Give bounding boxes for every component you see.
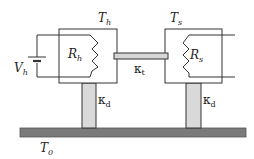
base-plate	[20, 128, 246, 137]
voltage-source-label: Vh	[14, 61, 28, 77]
right-support-conductance-label: κd	[203, 93, 216, 109]
thermal-link-bar	[114, 53, 168, 59]
left-support-pillar	[82, 83, 96, 128]
sensor-temperature-label: Ts	[170, 11, 182, 27]
base-temperature-label: T0	[40, 141, 53, 157]
right-support-pillar	[186, 83, 201, 128]
heater-temperature-label: Th	[98, 11, 111, 27]
left-support-conductance-label: κd	[98, 93, 111, 109]
link-conductance-label: κt	[134, 62, 146, 77]
thermal-diagram: Th Ts Rh Rs Vh κt κd κd T0	[0, 0, 254, 159]
